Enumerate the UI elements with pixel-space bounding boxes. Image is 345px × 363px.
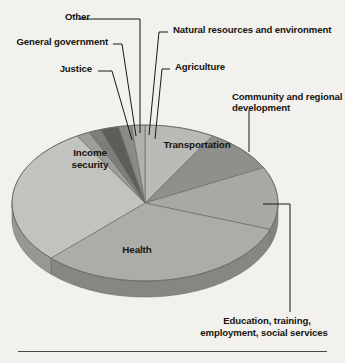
leader-line-general-government [113, 44, 136, 136]
bottom-divider [18, 351, 327, 352]
pie-chart-figure: Other General government Justice Natural… [0, 0, 345, 363]
callout-label-education-line2: employment, social services [185, 328, 343, 339]
callout-label-other: Other [28, 12, 90, 23]
slice-label-health: Health [110, 245, 164, 256]
callout-label-justice: Justice [36, 64, 92, 75]
callout-label-agriculture: Agriculture [175, 62, 265, 73]
callout-label-community-regional-line2: development [232, 103, 344, 114]
slice-label-transportation: Transportation [152, 140, 242, 151]
slice-label-income-security-line2: security [62, 160, 118, 171]
callout-label-general-government: General government [4, 37, 108, 48]
slice-label-income-security-line1: Income [62, 148, 118, 159]
leader-line-natural-resources [149, 32, 168, 135]
pie-chart-graphic [0, 0, 345, 363]
callout-label-education-line1: Education, training, [191, 316, 343, 327]
callout-label-natural-resources: Natural resources and environment [173, 25, 345, 36]
